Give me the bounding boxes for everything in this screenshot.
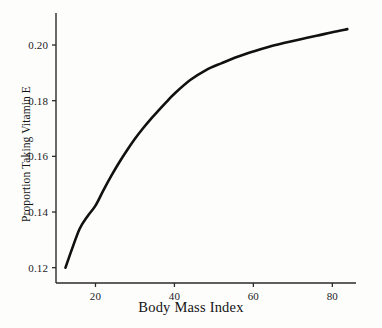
chart-figure: 0.120.140.160.180.20 20406080 Body Mass … bbox=[0, 0, 382, 328]
y-tick-label: 0.12 bbox=[8, 262, 48, 273]
x-axis-title: Body Mass Index bbox=[0, 299, 382, 316]
data-series-line bbox=[65, 29, 347, 268]
y-axis-title: Proportion Taking Vitamin E bbox=[20, 49, 32, 259]
plot-area bbox=[0, 0, 382, 328]
axes bbox=[56, 13, 356, 283]
